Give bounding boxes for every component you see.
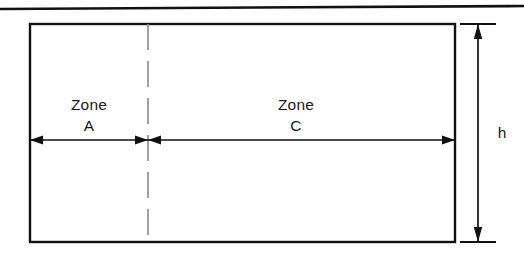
zone-a-label-line2: A <box>84 117 95 134</box>
diagram-root: Zone A Zone C h <box>0 0 524 256</box>
height-label: h <box>498 124 507 141</box>
zone-c-label-line1: Zone <box>278 96 314 113</box>
zone-c-label-line2: C <box>290 117 301 134</box>
zone-dimension-diagram: Zone A Zone C h <box>0 0 524 256</box>
zone-a-label-line1: Zone <box>71 96 107 113</box>
diagram-background <box>0 0 524 256</box>
